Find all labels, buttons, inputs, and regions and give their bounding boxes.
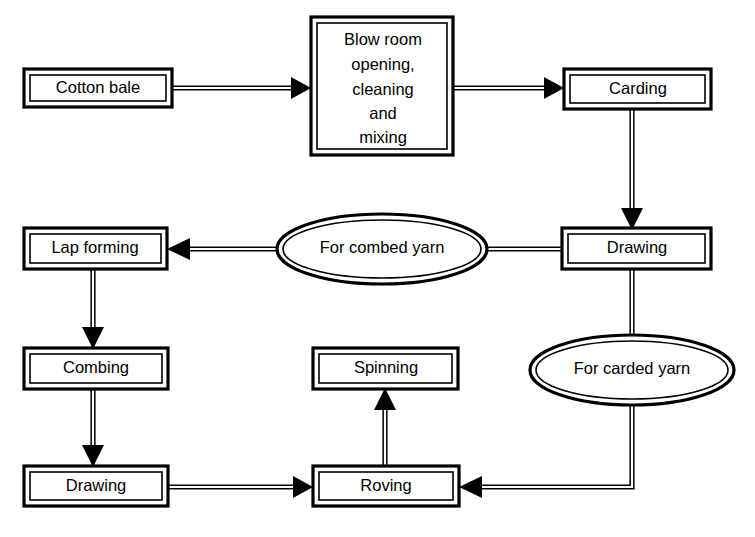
node-label-blow-room-line-4: and: [369, 104, 397, 122]
node-label-combing: Combing: [63, 358, 129, 376]
node-roving[interactable]: Roving: [313, 466, 459, 506]
node-layer: Cotton bale Blow room opening, cleaning …: [24, 17, 734, 506]
node-label-blow-room-line-2: opening,: [351, 55, 414, 73]
node-for-combed-yarn[interactable]: For combed yarn: [277, 214, 487, 284]
connector-for-combed-yarn-to-lap-forming: [167, 238, 277, 260]
process-flowchart: Cotton bale Blow room opening, cleaning …: [0, 0, 755, 537]
node-drawing-right[interactable]: Drawing: [562, 228, 711, 269]
node-label-blow-room-line-3: cleaning: [352, 80, 413, 98]
connector-drawing-left-to-roving: [168, 476, 313, 498]
node-label-cotton-bale: Cotton bale: [56, 78, 140, 96]
node-drawing-left[interactable]: Drawing: [24, 466, 168, 506]
node-blow-room[interactable]: Blow room opening, cleaning and mixing: [311, 17, 453, 155]
node-label-blow-room-line-1: Blow room: [344, 30, 422, 48]
connector-blow-room-to-carding: [453, 77, 564, 99]
node-for-carded-yarn[interactable]: For carded yarn: [530, 335, 734, 405]
connector-for-carded-yarn-to-roving: [459, 401, 632, 498]
flowchart-canvas: Cotton bale Blow room opening, cleaning …: [0, 0, 755, 537]
connector-cotton-bale-to-blow-room: [172, 77, 311, 99]
node-label-for-combed-yarn: For combed yarn: [320, 238, 445, 256]
connector-carding-to-drawing-right: [621, 109, 643, 230]
node-combing[interactable]: Combing: [24, 348, 168, 389]
node-carding[interactable]: Carding: [564, 69, 711, 109]
node-label-drawing-right: Drawing: [607, 238, 668, 256]
node-label-lap-forming: Lap forming: [51, 238, 138, 256]
connector-lap-forming-to-combing: [82, 269, 104, 349]
node-label-drawing-left: Drawing: [66, 476, 127, 494]
node-cotton-bale[interactable]: Cotton bale: [24, 69, 172, 107]
connector-roving-to-spinning: [374, 388, 396, 466]
node-lap-forming[interactable]: Lap forming: [24, 228, 167, 269]
node-label-spinning: Spinning: [354, 358, 418, 376]
node-label-for-carded-yarn: For carded yarn: [574, 359, 690, 377]
node-spinning[interactable]: Spinning: [313, 348, 458, 389]
node-label-blow-room-line-5: mixing: [359, 128, 407, 146]
node-label-carding: Carding: [609, 79, 667, 97]
node-label-roving: Roving: [360, 476, 411, 494]
connector-combing-to-drawing-left: [82, 389, 104, 467]
